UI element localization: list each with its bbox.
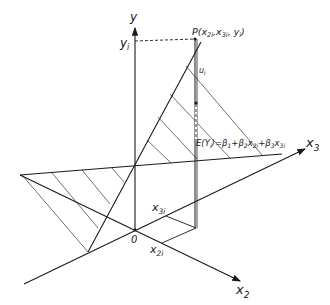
- plane-top-edge: [20, 154, 282, 175]
- x3i-label: x3i: [151, 201, 166, 216]
- regression-plane-diagram: y yi P(x2i,x3i, yi) ui E(Yi)=β1+β2x2i+β3…: [0, 0, 330, 305]
- base-x2-edge: [166, 216, 196, 228]
- expectation-equation: E(Yi)=β1+β2x2i+β3x3i: [196, 138, 285, 149]
- x2-axis: [20, 175, 240, 281]
- plane-steep-edge: [88, 42, 201, 252]
- x3-axis-label: x3: [305, 135, 320, 153]
- projection-lines: [135, 39, 197, 243]
- point-expected: [194, 101, 197, 104]
- origin-label: 0: [131, 234, 137, 245]
- base-x3-edge: [162, 228, 196, 243]
- point-p-label: P(x2i,x3i, yi): [192, 26, 245, 39]
- point-p: [193, 37, 196, 40]
- x3-axis: [24, 149, 305, 284]
- y-axis-label: y: [129, 10, 138, 24]
- origin-point: [134, 229, 137, 232]
- ui-label: ui: [199, 66, 206, 76]
- yi-label: yi: [119, 36, 130, 52]
- x2i-label: x2i: [149, 243, 164, 258]
- yi-dashed-line: [135, 39, 195, 41]
- x2-axis-label: x2: [235, 282, 250, 300]
